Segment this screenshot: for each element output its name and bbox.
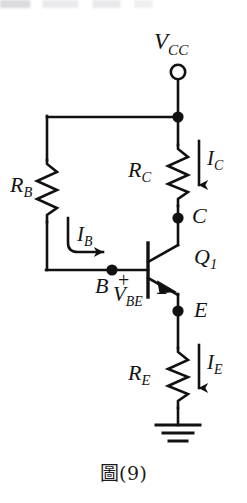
collector-node-dot [172,212,183,223]
base-resistor-label: RB [10,174,32,200]
supply-terminal-circle [171,65,185,79]
emitter-resistor-symbol [168,348,188,408]
voltage-plus-sign: + [118,270,129,290]
figure-page: VCC RB RC RE IB IC IE C B E Q1 VBE + − 圖… [0,0,247,503]
collector-current-label: IC [207,148,223,173]
emitter-resistor-label: RE [128,362,150,388]
base-node-label: B [95,275,108,297]
base-current-label: IB [77,224,92,249]
collector-node-label: C [192,205,207,227]
transistor-label: Q1 [194,246,217,272]
base-resistor-symbol [37,160,57,222]
collector-lead-wire [148,218,178,262]
collector-resistor-symbol [168,145,188,206]
supply-junction-dot [172,111,183,122]
voltage-minus-sign: − [156,283,167,303]
figure-caption: 圖(9) [0,458,247,485]
ground-symbol [156,425,200,441]
supply-label: VCC [154,30,188,57]
emitter-node-dot [172,305,183,316]
emitter-node-label: E [194,299,207,321]
collector-resistor-label: RC [128,159,151,185]
emitter-current-label: IE [207,352,222,377]
